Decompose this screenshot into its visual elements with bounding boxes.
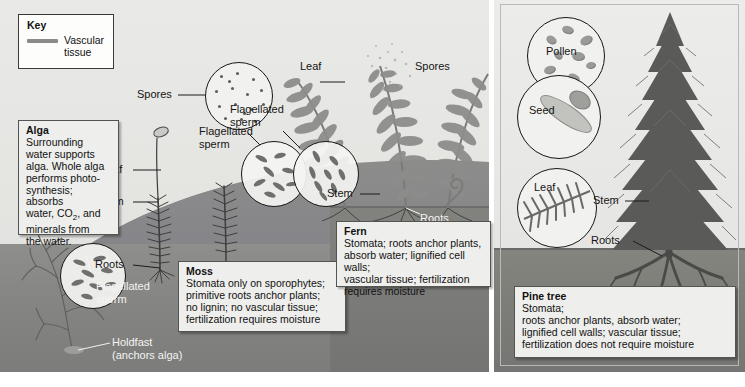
- alga-description-box: Alga Surrounding water supports alga. Wh…: [18, 120, 119, 235]
- pine-trunk: [668, 24, 670, 255]
- label-pine-leaf: Leaf: [534, 181, 555, 194]
- pine-box-body: Stomata; roots anchor plants, absorb wat…: [522, 303, 729, 351]
- label-alga-holdfast: Holdfast (anchors alga): [112, 336, 182, 361]
- key-title: Key: [27, 20, 107, 32]
- plant-adaptations-figure: Spores Flagellated sperm Leaf Stem Roots…: [0, 0, 745, 387]
- label-pine-pollen: Pollen: [546, 45, 577, 58]
- pine-leaf-inset: [517, 168, 597, 248]
- moss-description-box: Moss Stomata only on sporophytes; primit…: [178, 261, 346, 332]
- label-moss-spores: Spores: [137, 88, 172, 101]
- key-row: Vascular tissue: [27, 35, 107, 59]
- pine-soil-surface-line: [494, 248, 745, 250]
- key-swatch-label: Vascular tissue: [64, 35, 104, 59]
- label-fern-spores: Spores: [415, 60, 450, 73]
- label-alga-flagellated-sperm: Flagellated sperm: [96, 280, 150, 305]
- pine-needle-shape: [518, 169, 596, 247]
- moss-capsule: [152, 125, 169, 138]
- label-pine-stem: Stem: [593, 194, 619, 207]
- label-moss-roots: Roots: [95, 258, 124, 271]
- pine-seed-inset: [517, 75, 601, 159]
- vascular-tissue-swatch-icon: [27, 39, 58, 43]
- fern-box-body: Stomata; roots anchor plants, absorb wat…: [344, 238, 484, 298]
- seed-shape: [518, 76, 600, 158]
- label-fern-flagellated-sperm: Flagellated sperm: [230, 103, 284, 128]
- pine-foliage: [612, 12, 728, 250]
- label-fern-stem: Stem: [327, 187, 353, 200]
- label-fern-leaf: Leaf: [300, 60, 321, 73]
- label-pine-roots: Roots: [591, 234, 620, 247]
- label-moss-flagellated-sperm: Flagellated sperm: [199, 125, 253, 150]
- key-box: Key Vascular tissue: [18, 14, 114, 69]
- pine-needle-texture: [604, 24, 736, 240]
- pine-description-box: Pine tree Stomata; roots anchor plants, …: [514, 286, 736, 358]
- fern-soil-surface-line: [330, 206, 489, 208]
- fern-spore-cloud: [367, 43, 411, 91]
- label-pine-seed: Seed: [529, 104, 555, 117]
- alga-box-body: Surrounding water supports alga. Whole a…: [26, 137, 112, 248]
- moss-box-body: Stomata only on sporophytes; primitive r…: [186, 278, 339, 326]
- fern-description-box: Fern Stomata; roots anchor plants, absor…: [336, 221, 491, 287]
